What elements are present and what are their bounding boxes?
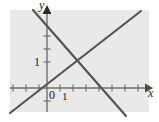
- origin-label: 0: [49, 88, 55, 103]
- x-axis-unit-label: 1: [62, 90, 68, 102]
- y-axis-unit-label: 1: [34, 55, 40, 70]
- coordinate-plane-svg: [0, 0, 159, 122]
- x-axis-label: x: [148, 86, 153, 101]
- increasing-line: [10, 11, 141, 113]
- y-axis-label: y: [39, 0, 44, 13]
- graph-figure: y x 1 0 1: [0, 0, 159, 122]
